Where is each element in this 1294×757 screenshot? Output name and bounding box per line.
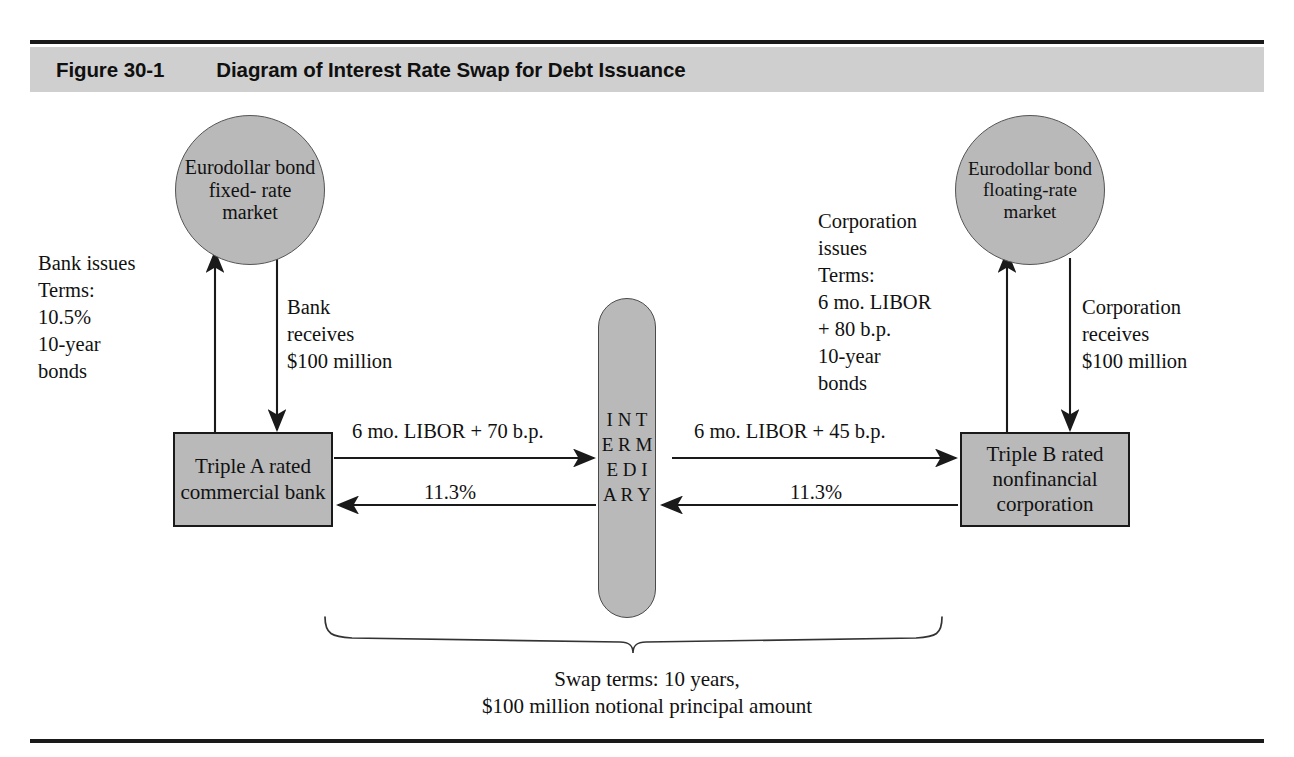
figure-header-band: Figure 30-1 Diagram of Interest Rate Swa…	[30, 47, 1264, 92]
figure-number: Figure 30-1	[56, 58, 164, 82]
figure-container: Figure 30-1 Diagram of Interest Rate Swa…	[0, 0, 1294, 757]
swap-brace	[325, 617, 942, 653]
market-circle-eurodollar-floating: Eurodollar bond floating-rate market	[955, 115, 1105, 265]
market-circle-right-label: Eurodollar bond floating-rate market	[956, 158, 1104, 222]
market-circle-eurodollar-fixed: Eurodollar bond fixed- rate market	[175, 115, 325, 265]
annotation-bank-issues: Bank issues Terms: 10.5% 10-year bonds	[38, 250, 135, 385]
party-box-triple-b-corporation: Triple B rated nonfinancial corporation	[960, 432, 1130, 527]
flow-label-intermediary-to-corporation-floating: 6 mo. LIBOR + 45 b.p.	[694, 420, 886, 443]
market-circle-left-label: Eurodollar bond fixed- rate market	[176, 156, 324, 223]
party-box-triple-a-bank: Triple A rated commercial bank	[173, 432, 333, 527]
party-box-right-label: Triple B rated nonfinancial corporation	[962, 442, 1128, 518]
annotation-bank-receives: Bank receives $100 million	[287, 294, 392, 375]
flow-label-corporation-to-intermediary-fixed: 11.3%	[790, 481, 842, 504]
party-box-left-label: Triple A rated commercial bank	[175, 454, 331, 504]
flow-label-intermediary-to-bank-fixed: 11.3%	[424, 481, 476, 504]
figure-title: Diagram of Interest Rate Swap for Debt I…	[216, 58, 685, 82]
intermediary-label: I N T E R M E D I A R Y	[599, 408, 655, 508]
intermediary-pill: I N T E R M E D I A R Y	[598, 298, 656, 618]
swap-terms-caption: Swap terms: 10 years, $100 million notio…	[0, 666, 1294, 721]
annotation-corporation-issues: Corporation issues Terms: 6 mo. LIBOR + …	[818, 208, 931, 397]
flow-label-bank-to-intermediary-floating: 6 mo. LIBOR + 70 b.p.	[352, 420, 544, 443]
frame-rule-bottom	[30, 739, 1264, 743]
frame-rule-top	[30, 40, 1264, 44]
annotation-corporation-receives: Corporation receives $100 million	[1082, 294, 1187, 375]
